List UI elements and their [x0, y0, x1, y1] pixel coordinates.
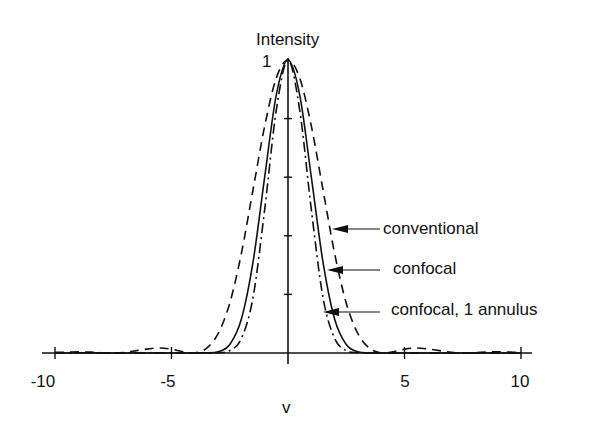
arrowhead-icon	[332, 225, 348, 233]
x-tick-label: 5	[400, 372, 409, 392]
x-axis-label: v	[282, 398, 291, 418]
plot-area	[0, 0, 604, 434]
x-tick-label: -5	[160, 372, 175, 392]
y-tick-label-1: 1	[262, 52, 271, 72]
legend-conventional: conventional	[383, 219, 478, 239]
x-tick-label: 10	[511, 372, 530, 392]
y-axis-label: Intensity	[256, 30, 319, 50]
legend-confocal: confocal	[393, 259, 456, 279]
arrowhead-icon	[327, 266, 343, 274]
x-tick-label: -10	[31, 372, 56, 392]
legend-confocal-annulus: confocal, 1 annulus	[391, 300, 538, 320]
legend-arrows	[323, 225, 380, 316]
